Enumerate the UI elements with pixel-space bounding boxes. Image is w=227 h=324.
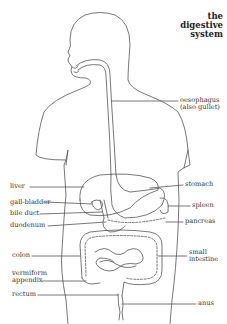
label-vermiform-appendix: vermiform appendix	[12, 270, 47, 284]
label-anus: anus	[198, 300, 214, 307]
label-stomach: stomach	[185, 181, 213, 188]
body-outline	[36, 13, 190, 324]
colon-shape	[80, 230, 162, 296]
label-oesophagus-line2: (also gullet)	[180, 104, 220, 111]
oesophagus-tube	[76, 60, 116, 175]
label-gall-bladder: gall-bladder	[10, 199, 50, 206]
label-spleen: spleen	[192, 202, 214, 209]
label-rectum: rectum	[12, 291, 36, 298]
label-colon: colon	[12, 252, 30, 259]
label-intestine-line2: intestine	[189, 256, 218, 263]
stomach-shape	[111, 175, 165, 218]
label-duodenum: duodenum	[10, 222, 45, 229]
label-appendix-line2: appendix	[12, 277, 47, 284]
small-intestine-shape	[95, 249, 143, 272]
label-oesophagus: oesophagus (also gullet)	[180, 97, 220, 111]
label-small-intestine: small intestine	[189, 249, 218, 263]
liver-shape	[80, 174, 158, 216]
label-liver: liver	[10, 183, 25, 190]
label-bile-duct: bile duct	[10, 210, 39, 217]
label-pancreas: pancreas	[185, 218, 215, 225]
